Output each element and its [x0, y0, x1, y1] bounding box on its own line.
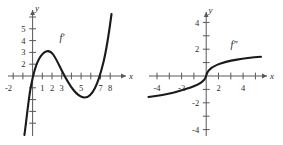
- figure-root: -2 1 2 3 5 7 8 2 3 4 5 x y f′: [0, 0, 283, 145]
- y-tick-label: 4: [195, 18, 200, 28]
- x-axis-label: x: [128, 71, 133, 81]
- chart-svg-f-double-prime: -4 -2 2 4 4 2 -2 -4 x y f″: [141, 0, 283, 145]
- curve-label-f-prime: f′: [60, 32, 66, 43]
- y-axis-label: y: [208, 5, 213, 15]
- y-tick-label: 4: [21, 36, 26, 46]
- y-tick-label: -2: [192, 98, 199, 108]
- y-tick-label: 5: [21, 24, 25, 34]
- curve-label-f-double-prime: f″: [231, 39, 239, 50]
- chart-svg-f-prime: -2 1 2 3 5 7 8 2 3 4 5 x y f′: [0, 0, 142, 145]
- x-tick-label: 5: [79, 83, 83, 93]
- y-axis-f-prime: [29, 10, 36, 136]
- x-tick-label: 2: [216, 83, 220, 93]
- x-axis-f-double-prime: [149, 73, 267, 80]
- y-tick-label: 3: [21, 47, 25, 57]
- x-tick-label: 4: [241, 83, 246, 93]
- x-tick-label: 8: [108, 83, 112, 93]
- x-tick-label: -4: [153, 83, 161, 93]
- x-tick-label: -2: [178, 83, 185, 93]
- x-tick-label: 2: [50, 83, 54, 93]
- x-axis-arrow: [121, 74, 126, 79]
- y-tick-label: -4: [192, 125, 200, 135]
- y-tick-label: 2: [21, 59, 25, 69]
- chart-panel-f-prime: -2 1 2 3 5 7 8 2 3 4 5 x y f′: [0, 0, 142, 145]
- x-tick-label: 7: [98, 83, 102, 93]
- y-axis-label: y: [34, 3, 39, 13]
- x-axis-label: x: [269, 71, 274, 81]
- x-tick-label: 1: [40, 83, 44, 93]
- chart-panel-f-double-prime: -4 -2 2 4 4 2 -2 -4 x y f″: [141, 0, 283, 145]
- y-tick-label: 2: [195, 44, 199, 54]
- x-axis-arrow: [262, 74, 267, 79]
- x-tick-label: 3: [60, 83, 64, 93]
- x-tick-label: -2: [5, 83, 12, 93]
- curve-f-prime: [24, 14, 111, 135]
